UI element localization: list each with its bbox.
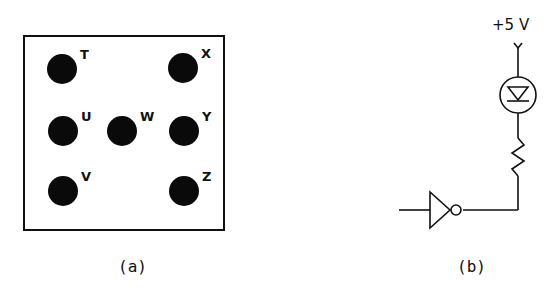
figure: TXUWYVZ (a) +5 V (b) <box>0 0 556 294</box>
caption-a: (a) <box>118 257 147 276</box>
inverter-icon <box>430 192 461 228</box>
dot-label-u: U <box>81 109 92 124</box>
dot-label-t: T <box>80 47 89 62</box>
dot-v <box>48 176 78 206</box>
dot-y <box>169 116 199 146</box>
supply-label: +5 V <box>492 16 530 34</box>
panel-a: TXUWYVZ (a) <box>24 36 224 276</box>
caption-b: (b) <box>457 257 486 276</box>
dot-label-z: Z <box>202 169 211 184</box>
panel-b: +5 V (b) <box>399 16 536 276</box>
resistor-icon <box>512 138 524 176</box>
dot-x <box>168 53 198 83</box>
supply-terminal-icon <box>514 43 522 48</box>
dot-z <box>169 176 199 206</box>
dot-w <box>107 116 137 146</box>
dot-t <box>47 54 77 84</box>
dot-u <box>48 116 78 146</box>
led-icon <box>500 77 536 113</box>
dot-label-w: W <box>140 109 154 124</box>
dot-label-v: V <box>81 169 91 184</box>
dot-label-x: X <box>201 46 211 61</box>
dot-label-y: Y <box>201 109 212 124</box>
